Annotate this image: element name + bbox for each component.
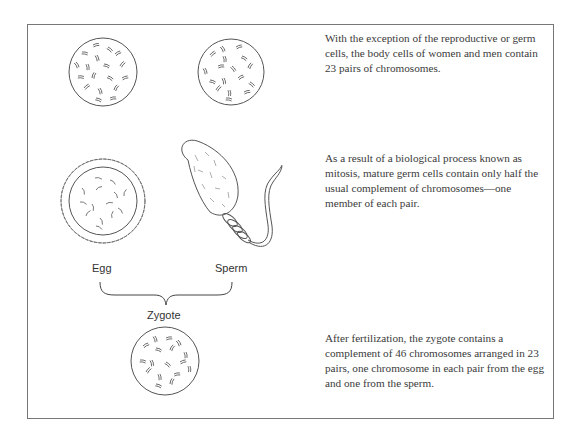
body-cell-female-icon [69,38,137,106]
paragraph-zygote: After fertilization, the zygote contains… [325,331,550,391]
body-cell-male-icon [198,39,264,105]
brace-icon [100,282,232,305]
paragraph-germ-cells: As a result of a biological process know… [325,151,550,211]
sperm-label: Sperm [215,262,247,274]
egg-cell-icon [61,159,145,243]
sperm-cell-icon [182,140,282,246]
paragraph-body-cells: With the exception of the reproductive o… [325,31,550,76]
zygote-cell-icon [131,327,199,395]
zygote-label: Zygote [147,309,181,321]
egg-label: Egg [92,262,112,274]
